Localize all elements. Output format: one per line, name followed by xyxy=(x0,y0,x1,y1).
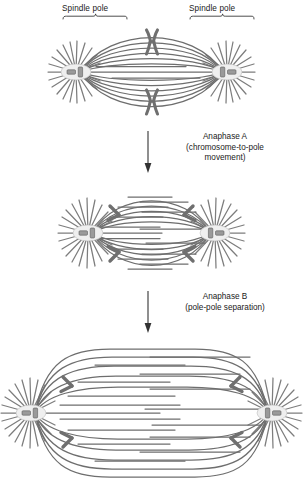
chromosome-pair-top-1 xyxy=(147,30,158,54)
mitotic-spindle-figure: Spindle pole Spindle pole Anaphase A (ch… xyxy=(0,0,303,485)
spindle-pole-right-1 xyxy=(212,64,242,80)
spindle-pole-right-3 xyxy=(257,405,287,421)
annotation-anaphase-a-title: Anaphase A xyxy=(152,132,298,143)
panel-anaphase-b xyxy=(1,349,302,477)
arrow-anaphase-a xyxy=(145,131,152,173)
annotation-anaphase-b-subtitle-1: (pole-pole separation) xyxy=(152,303,298,314)
annotation-anaphase-b: Anaphase B (pole-pole separation) xyxy=(152,292,298,313)
spindle-pole-label-right: Spindle pole xyxy=(189,4,235,15)
panel-anaphase-a xyxy=(58,197,245,269)
annotation-anaphase-a: Anaphase A (chromosome-to-pole movement) xyxy=(152,132,298,164)
figure-canvas xyxy=(0,0,303,485)
spindle-pole-right-2 xyxy=(200,225,230,241)
chromosome-pair-bottom-1 xyxy=(147,90,158,114)
spindle-pole-label-left: Spindle pole xyxy=(62,4,108,15)
annotation-anaphase-a-subtitle-2: movement) xyxy=(152,153,298,164)
spindle-microtubules-1 xyxy=(80,38,223,107)
brace-right xyxy=(190,14,254,19)
brace-left xyxy=(63,14,127,19)
spindle-pole-left-3 xyxy=(16,405,46,421)
annotation-anaphase-b-title: Anaphase B xyxy=(152,292,298,303)
spindle-pole-left-2 xyxy=(73,225,103,241)
spindle-pole-left-1 xyxy=(61,64,91,80)
annotation-anaphase-a-subtitle-1: (chromosome-to-pole xyxy=(152,143,298,154)
arrow-anaphase-b xyxy=(145,291,152,333)
panel-metaphase xyxy=(48,14,255,114)
